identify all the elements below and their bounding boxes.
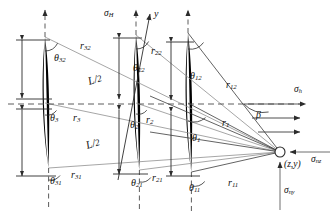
radius-label-r2: r2 bbox=[146, 115, 153, 126]
point-coordinates-label: (z,y) bbox=[284, 160, 301, 170]
angle-label-theta31: θ31 bbox=[50, 176, 61, 187]
half-length-upper-label: L/2 bbox=[88, 70, 102, 86]
radius-label-r31: r31 bbox=[71, 170, 81, 181]
ray-bundle-gray bbox=[45, 35, 280, 170]
sigma-H-label: σH bbox=[104, 9, 113, 19]
half-length-lower-label: L/2 bbox=[86, 134, 100, 150]
sigma-nz-label: σnz bbox=[311, 155, 321, 165]
beta-label: β bbox=[256, 110, 261, 120]
figure-canvas: σH σh σnz σny y β (z,y) L/2 L/2 θ32θ3θ31… bbox=[0, 0, 332, 222]
sigma-h-label: σh bbox=[294, 85, 302, 95]
radius-label-r3: r3 bbox=[73, 113, 80, 124]
diagram-svg bbox=[0, 0, 332, 222]
y-axis-label: y bbox=[154, 9, 158, 19]
ray-bundle-dark bbox=[150, 33, 280, 172]
angle-label-theta12: θ12 bbox=[190, 71, 201, 82]
radius-label-r22: r22 bbox=[151, 46, 161, 57]
sigma-ny-label: σny bbox=[284, 186, 295, 196]
radius-label-r12: r12 bbox=[226, 80, 236, 91]
radius-label-r21: r21 bbox=[152, 173, 162, 184]
angle-label-theta32: θ32 bbox=[54, 53, 65, 64]
angle-label-theta3: θ3 bbox=[50, 113, 58, 124]
crack-1 bbox=[186, 33, 193, 172]
y-axis bbox=[118, 14, 150, 180]
angle-label-theta21: θ21 bbox=[131, 178, 142, 189]
radius-label-r1: r1 bbox=[222, 118, 229, 129]
radius-label-r11: r11 bbox=[228, 178, 238, 189]
radius-label-r32: r32 bbox=[80, 41, 90, 52]
crack-2 bbox=[134, 35, 141, 170]
angle-label-theta11: θ11 bbox=[189, 183, 200, 194]
angle-label-theta1: θ1 bbox=[192, 133, 200, 144]
angle-label-theta22: θ22 bbox=[133, 63, 144, 74]
evaluation-point-marker bbox=[275, 147, 285, 157]
crack-3 bbox=[43, 37, 50, 168]
angle-label-theta2: θ2 bbox=[130, 120, 138, 131]
